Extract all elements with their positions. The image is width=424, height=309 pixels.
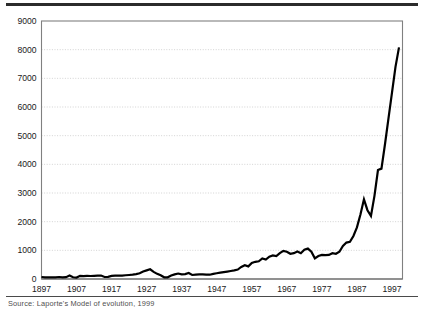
x-tick-label: 1917: [102, 284, 121, 294]
y-tick-label: 4000: [17, 159, 36, 169]
bottom-divider-rule: [6, 296, 418, 297]
y-tick-label: 8000: [17, 45, 36, 55]
gridlines-group: [42, 50, 403, 251]
y-tick-label: 3000: [17, 188, 36, 198]
top-divider-rule: [6, 3, 418, 6]
figure-page: 0100020003000400050006000700080009000 18…: [0, 0, 424, 309]
chart-figure: 0100020003000400050006000700080009000 18…: [0, 12, 424, 294]
y-tick-label: 7000: [17, 73, 36, 83]
y-tick-label: 5000: [17, 131, 36, 141]
x-tick-label: 1927: [137, 284, 156, 294]
x-tick-label: 1957: [242, 284, 261, 294]
y-axis-tick-labels: 0100020003000400050006000700080009000: [17, 16, 36, 284]
line-chart: 0100020003000400050006000700080009000 18…: [0, 12, 424, 294]
y-tick-label: 6000: [17, 102, 36, 112]
figure-caption: Source: Laporte's Model of evolution, 19…: [8, 299, 420, 309]
series-value-line: [42, 47, 400, 277]
data-series-line: [42, 47, 400, 277]
y-tick-label: 2000: [17, 217, 36, 227]
x-tick-label: 1897: [32, 284, 51, 294]
x-tick-label: 1967: [277, 284, 296, 294]
x-tick-label: 1997: [382, 284, 401, 294]
x-tick-label: 1977: [312, 284, 331, 294]
x-axis-tick-labels: 1897190719171927193719471957196719771987…: [32, 284, 402, 294]
plot-border: [42, 21, 403, 279]
x-tick-label: 1947: [207, 284, 226, 294]
y-tick-label: 9000: [17, 16, 36, 26]
plot-frame: [42, 21, 403, 279]
x-tick-label: 1987: [347, 284, 366, 294]
x-tick-label: 1907: [67, 284, 86, 294]
x-tick-label: 1937: [172, 284, 191, 294]
y-tick-label: 1000: [17, 245, 36, 255]
